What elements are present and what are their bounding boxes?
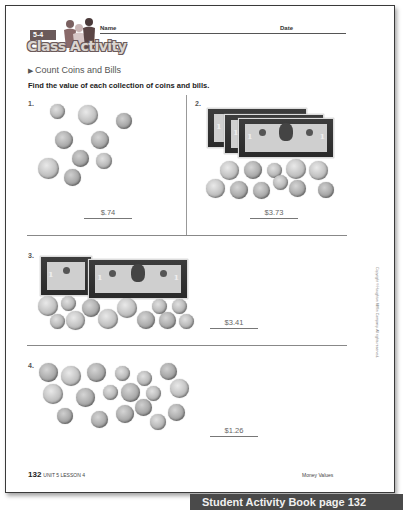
- coin: [76, 388, 95, 407]
- row-divider-1: [27, 235, 347, 236]
- coin: [309, 161, 328, 180]
- problem-4-answer: $1.26: [210, 426, 258, 437]
- coin: [115, 366, 130, 381]
- coin: [91, 131, 109, 149]
- coin: [150, 414, 166, 430]
- coin: [230, 181, 248, 199]
- problem-3-number: 3.: [28, 252, 34, 259]
- instructions: Find the value of each collection of coi…: [28, 81, 209, 90]
- coin: [50, 314, 65, 329]
- coin: [146, 386, 161, 401]
- coin: [168, 404, 185, 421]
- coin: [273, 175, 288, 190]
- class-activity-logo: Class Activity: [27, 38, 126, 54]
- problem-1-answer: $.74: [84, 208, 132, 219]
- coin: [117, 298, 137, 318]
- footer-topic: Money Values: [302, 472, 333, 478]
- coin: [137, 371, 152, 386]
- problem-1-number: 1.: [28, 100, 34, 107]
- problem-4-number: 4.: [28, 362, 34, 369]
- problem-2-answer: $3.73: [250, 208, 298, 219]
- coin: [87, 363, 106, 382]
- coin: [179, 314, 194, 329]
- coin: [135, 399, 152, 416]
- coin: [286, 159, 306, 179]
- problem-3-answer: $3.41: [210, 318, 258, 329]
- triangle-bullet-icon: ▶: [28, 67, 33, 74]
- coin: [172, 299, 187, 314]
- dollar-bill: 11: [238, 118, 334, 158]
- copyright-notice: Copyright © Houghton Mifflin Company. Al…: [372, 270, 378, 390]
- coin: [96, 153, 112, 169]
- coin: [244, 161, 262, 179]
- coin: [66, 311, 85, 330]
- page-caption: Student Activity Book page 132: [190, 494, 403, 510]
- coin: [98, 309, 118, 329]
- coin: [91, 411, 108, 428]
- coin: [55, 131, 73, 149]
- dollar-bill: 1: [40, 256, 92, 296]
- coin: [137, 311, 155, 329]
- coin: [78, 105, 98, 125]
- coin: [116, 405, 134, 423]
- coin: [220, 161, 239, 180]
- coin: [206, 179, 225, 198]
- coin: [103, 385, 118, 400]
- column-divider: [186, 95, 187, 235]
- dollar-bill: 11: [88, 259, 188, 299]
- coin: [38, 158, 59, 179]
- coin: [289, 180, 306, 197]
- page-footer-left: 132UNIT 5 LESSON 4: [28, 470, 85, 479]
- coin: [253, 182, 270, 199]
- coin: [38, 296, 58, 316]
- coin: [57, 408, 73, 424]
- coin: [61, 366, 81, 386]
- coin: [121, 383, 140, 402]
- coin: [170, 379, 189, 398]
- coin: [82, 299, 100, 317]
- name-date-line: [100, 33, 346, 34]
- page-number: 132: [28, 470, 41, 479]
- unit-lesson: UNIT 5 LESSON 4: [43, 472, 85, 478]
- problem-2-number: 2.: [195, 100, 201, 107]
- coin: [160, 363, 177, 380]
- coin: [43, 384, 63, 404]
- coin: [72, 150, 89, 167]
- section-title: ▶Count Coins and Bills: [28, 65, 121, 75]
- coin: [159, 312, 176, 329]
- coin: [50, 104, 65, 119]
- coin: [318, 182, 334, 198]
- coin: [64, 169, 81, 186]
- coin: [116, 113, 132, 129]
- date-label: Date: [280, 25, 293, 31]
- coin: [61, 296, 76, 311]
- name-label: Name: [100, 25, 116, 31]
- row-divider-2: [27, 345, 347, 346]
- coin: [39, 363, 58, 382]
